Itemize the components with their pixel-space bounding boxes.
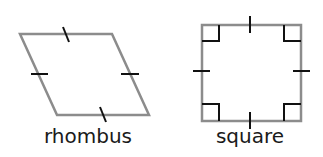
- square-label: square: [216, 124, 284, 148]
- right-angle-mark-bottom-right: [284, 104, 301, 121]
- square-figure: [193, 16, 310, 129]
- shapes-diagram: rhombus square: [0, 0, 323, 157]
- rhombus-figure: [20, 27, 149, 122]
- right-angle-mark-top-right: [284, 25, 301, 41]
- right-angle-mark-top-left: [202, 25, 219, 41]
- square-outline: [202, 25, 301, 121]
- rhombus-label: rhombus: [44, 124, 132, 148]
- right-angle-mark-bottom-left: [202, 104, 219, 121]
